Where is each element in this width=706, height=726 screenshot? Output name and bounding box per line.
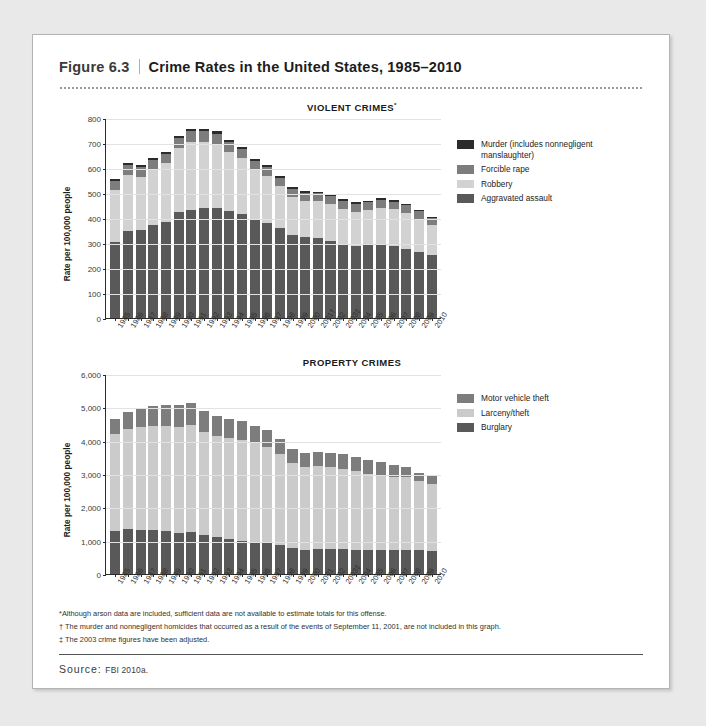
y-tick-mark — [103, 169, 106, 170]
bar-segment — [224, 211, 234, 318]
bar-segment — [224, 438, 234, 539]
x-tick-mark — [432, 574, 433, 577]
bar-segment — [351, 204, 361, 212]
legend-item: Larceny/theft — [457, 408, 637, 419]
y-tick-mark — [103, 475, 106, 476]
figure-header: Figure 6.3 Crime Rates in the United Sta… — [59, 57, 643, 75]
gridline — [106, 219, 441, 220]
bar-segment — [186, 131, 196, 142]
bar-segment — [376, 200, 386, 208]
figure-card: Figure 6.3 Crime Rates in the United Sta… — [32, 34, 670, 689]
bar-segment — [287, 189, 297, 197]
x-tick-mark — [179, 574, 180, 577]
x-tick-mark — [204, 574, 205, 577]
x-tick-mark — [419, 318, 420, 321]
property-crimes-plot: 1985198619871988198919901991199219931994… — [105, 375, 441, 575]
x-tick-mark — [217, 574, 218, 577]
bar-segment — [123, 175, 133, 232]
bar-segment — [237, 214, 247, 319]
gridline — [106, 269, 441, 270]
x-tick-mark — [432, 318, 433, 321]
x-tick-mark — [318, 318, 319, 321]
bar-segment — [212, 416, 222, 436]
x-tick-mark — [229, 318, 230, 321]
figure-page: Figure 6.3 Crime Rates in the United Sta… — [0, 0, 706, 726]
violent-crimes-y-tick-label: 800 — [88, 115, 101, 124]
bar-segment — [287, 463, 297, 548]
violent-crimes-y-tick-label: 200 — [88, 265, 101, 274]
bar-segment — [363, 245, 373, 318]
header-dotted-rule — [59, 87, 643, 89]
x-tick-mark — [356, 318, 357, 321]
x-tick-mark — [305, 574, 306, 577]
footnote-2: † The murder and nonnegligent homicides … — [59, 620, 643, 633]
bar-segment — [174, 212, 184, 318]
bar-segment — [414, 211, 424, 218]
violent-crimes-y-tick-label: 500 — [88, 190, 101, 199]
y-tick-mark — [103, 542, 106, 543]
legend-swatch — [457, 140, 474, 149]
violent-crimes-y-tick-label: 600 — [88, 165, 101, 174]
bar-segment — [325, 204, 335, 241]
legend-swatch — [457, 180, 474, 189]
x-tick-mark — [318, 574, 319, 577]
legend-swatch — [457, 194, 474, 203]
bar-segment — [199, 411, 209, 432]
bar-segment — [414, 473, 424, 482]
property-crimes-title: PROPERTY CRIMES — [59, 357, 645, 368]
x-tick-mark — [305, 318, 306, 321]
bar-segment — [376, 462, 386, 475]
x-tick-mark — [394, 574, 395, 577]
bar-segment — [363, 202, 373, 210]
x-tick-mark — [368, 574, 369, 577]
bar-segment — [275, 454, 285, 545]
bar-segment — [110, 242, 120, 318]
bar-segment — [123, 165, 133, 175]
bar-segment — [148, 406, 158, 425]
x-tick-mark — [267, 318, 268, 321]
y-tick-mark — [103, 144, 106, 145]
bar-segment — [136, 409, 146, 427]
bar-segment — [110, 190, 120, 242]
bar-segment — [351, 471, 361, 550]
bar-segment — [313, 238, 323, 318]
y-tick-mark — [103, 269, 106, 270]
x-tick-mark — [381, 318, 382, 321]
source-line: Source: FBI 2010a. — [59, 663, 148, 675]
property-crimes-legend: Motor vehicle theftLarceny/theftBurglary — [457, 393, 637, 437]
bar-segment — [237, 158, 247, 213]
y-tick-mark — [103, 508, 106, 509]
bar-segment — [275, 178, 285, 187]
bar-segment — [110, 181, 120, 190]
y-tick-mark — [103, 375, 106, 376]
bar-segment — [376, 476, 386, 550]
x-tick-mark — [242, 318, 243, 321]
violent-crimes-y-tick-label: 100 — [88, 290, 101, 299]
bar-segment — [186, 142, 196, 210]
legend-item: Forcible rape — [457, 164, 637, 175]
bar-segment — [401, 477, 411, 549]
violent-crimes-ylabel: Rate per 100,000 people — [62, 174, 72, 294]
bar-segment — [313, 452, 323, 466]
violent-crimes-title: VIOLENT CRIMES* — [59, 101, 645, 113]
x-tick-mark — [280, 318, 281, 321]
legend-label: Motor vehicle theft — [481, 393, 549, 404]
x-tick-mark — [280, 574, 281, 577]
legend-label: Murder (includes nonnegligent manslaught… — [481, 139, 637, 160]
violent-crimes-y-tick-label: 0 — [97, 315, 101, 324]
bar-segment — [338, 209, 348, 245]
violent-crimes-y-tick-label: 700 — [88, 140, 101, 149]
x-tick-mark — [141, 318, 142, 321]
x-tick-mark — [330, 318, 331, 321]
figure-number: Figure 6.3 — [59, 59, 130, 75]
property-crimes-y-tick-label: 5,000 — [81, 404, 101, 413]
y-tick-mark — [103, 194, 106, 195]
bar-segment — [414, 481, 424, 550]
bar-segment — [186, 210, 196, 318]
x-tick-mark — [255, 318, 256, 321]
property-crimes-y-tick-label: 6,000 — [81, 371, 101, 380]
bar-segment — [174, 148, 184, 212]
property-crimes-panel: PROPERTY CRIMES Rate per 100,000 people … — [59, 357, 645, 607]
bar-segment — [199, 142, 209, 208]
bar-segment — [351, 212, 361, 246]
